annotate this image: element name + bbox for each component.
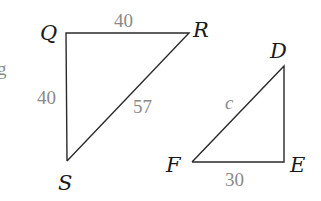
triangle-def-edges <box>192 66 284 162</box>
triangle-qrs-edges <box>66 33 189 161</box>
side-rs-label: 57 <box>133 96 152 117</box>
vertex-e-label: E <box>289 153 305 177</box>
side-qs-label: 40 <box>37 87 56 108</box>
triangle-def: D E F c 30 <box>165 39 305 190</box>
side-df-label: c <box>225 92 234 113</box>
vertex-q-label: Q <box>40 21 57 45</box>
side-fe-label: 30 <box>225 169 244 190</box>
triangle-qrs: Q R S 40 40 57 <box>37 10 209 195</box>
vertex-r-label: R <box>192 18 209 42</box>
vertex-f-label: F <box>165 153 182 177</box>
vertex-d-label: D <box>269 39 287 63</box>
side-qr-label: 40 <box>114 10 133 31</box>
cropped-text: g <box>0 58 7 79</box>
vertex-s-label: S <box>58 171 72 195</box>
triangle-figure: g Q R S 40 40 57 D E F c 30 <box>0 0 321 201</box>
